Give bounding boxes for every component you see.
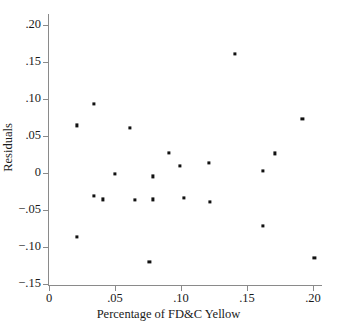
data-point (301, 117, 304, 120)
data-point (152, 175, 155, 178)
data-point (182, 196, 185, 199)
y-tick-label: .20 (1, 18, 41, 31)
y-tick-label: .15 (1, 55, 41, 68)
y-axis-title: Residuals (1, 88, 16, 208)
x-tick-label: .20 (293, 292, 333, 305)
x-axis-title: Percentage of FD&C Yellow (0, 307, 337, 322)
data-point (148, 260, 151, 263)
data-point (133, 198, 136, 201)
data-point (178, 164, 181, 167)
y-tick-label: −.10 (1, 240, 41, 253)
data-point (113, 173, 116, 176)
data-point (207, 161, 210, 164)
x-tick-label: 0 (29, 292, 69, 305)
data-point (75, 235, 78, 238)
data-point (92, 194, 95, 197)
x-tick-label: .05 (95, 292, 135, 305)
data-point (234, 53, 237, 56)
data-point (261, 170, 264, 173)
data-point (313, 256, 316, 259)
x-tick-label: .10 (161, 292, 201, 305)
data-point (273, 152, 276, 155)
data-point (102, 198, 105, 201)
data-point (75, 124, 78, 127)
data-point (128, 126, 131, 129)
x-tick-label: .15 (227, 292, 267, 305)
data-point (168, 151, 171, 154)
data-point (208, 200, 211, 203)
y-tick-label: −.15 (1, 277, 41, 290)
data-point (152, 198, 155, 201)
plot-area (49, 14, 321, 285)
x-axis-line (48, 285, 322, 286)
data-point (92, 102, 95, 105)
data-point (261, 224, 264, 227)
residual-scatter-plot: .20.15.10.050−.05−.10−.15 0.05.10.15.20 … (0, 0, 337, 326)
